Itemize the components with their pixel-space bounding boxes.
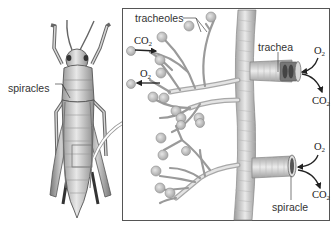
label-spiracles: spiracles xyxy=(8,83,49,94)
gas-subscript: 2 xyxy=(149,40,153,48)
gas-base: O xyxy=(314,141,322,152)
gas-o2-right-bottom: O2 xyxy=(314,142,325,154)
gas-base: CO xyxy=(312,189,327,200)
gas-co2-left: CO2 xyxy=(134,36,152,48)
label-spiracle: spiracle xyxy=(272,202,308,213)
gas-base: O xyxy=(314,45,322,56)
gas-co2-right-top: CO2 xyxy=(312,96,330,108)
label-tracheoles: tracheoles xyxy=(135,13,183,24)
gas-o2-left: O2 xyxy=(140,69,151,81)
gas-base: O xyxy=(140,68,148,79)
gas-subscript: 2 xyxy=(148,73,152,81)
gas-base: CO xyxy=(312,95,327,106)
gas-o2-right-top: O2 xyxy=(314,46,325,58)
gas-subscript: 2 xyxy=(327,194,331,202)
gas-subscript: 2 xyxy=(327,100,331,108)
gas-subscript: 2 xyxy=(322,146,326,154)
gas-base: CO xyxy=(134,35,149,46)
tracheal-system-detail xyxy=(0,0,334,226)
diagram-stage: spiracles tracheoles trachea spiracle CO… xyxy=(0,0,334,226)
label-trachea: trachea xyxy=(258,42,293,53)
gas-co2-right-bottom: CO2 xyxy=(312,190,330,202)
gas-subscript: 2 xyxy=(322,50,326,58)
